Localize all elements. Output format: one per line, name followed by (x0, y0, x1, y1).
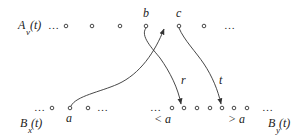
label-By: B (268, 116, 276, 130)
label-A: A (17, 18, 26, 32)
bottom-left-trailing-ellipsis: … (97, 101, 109, 113)
bottom-right-row-label: B y (t) (268, 116, 290, 135)
label-By-arg: (t) (279, 116, 290, 130)
edge-label-r: r (181, 73, 186, 87)
node-label-b: b (143, 6, 149, 20)
bottom-right-node (195, 106, 199, 110)
bottom-left-leading-ellipsis: … (34, 101, 46, 113)
bottom-right-node-t-target (220, 106, 224, 110)
top-leading-ellipsis: … (48, 19, 60, 31)
bottom-right-node (170, 106, 174, 110)
label-A-arg: (t) (30, 18, 41, 32)
bottom-right-node-r-target (182, 106, 186, 110)
top-node (90, 24, 94, 28)
edge-b-to-r (144, 28, 181, 104)
region-label-less-than-a: < a (154, 112, 171, 126)
bottom-left-node (86, 106, 90, 110)
node-label-a: a (66, 111, 72, 125)
diagram-canvas: A v (t) … b c … … … a B x (t) … … < a > … (0, 0, 303, 140)
label-Bx: B (20, 116, 28, 130)
edge-a-to-b (71, 29, 164, 106)
bottom-right-node (208, 106, 212, 110)
bottom-left-row-label: B x (t) (20, 116, 42, 135)
top-node-c (177, 24, 181, 28)
top-trailing-ellipsis: … (224, 19, 236, 31)
bottom-left-node-a (68, 106, 72, 110)
node-label-c: c (176, 6, 182, 20)
region-label-greater-than-a: > a (228, 112, 245, 126)
bottom-right-node (232, 106, 236, 110)
bottom-right-trailing-ellipsis: … (262, 101, 274, 113)
top-node (64, 24, 68, 28)
bottom-left-node (50, 106, 54, 110)
edge-c-to-t (179, 28, 221, 104)
label-Bx-arg: (t) (31, 116, 42, 130)
top-node (118, 24, 122, 28)
top-node-b (144, 24, 148, 28)
edge-label-t: t (219, 73, 223, 87)
bottom-right-node (245, 106, 249, 110)
top-node (202, 24, 206, 28)
top-row-label: A v (t) (17, 18, 41, 37)
